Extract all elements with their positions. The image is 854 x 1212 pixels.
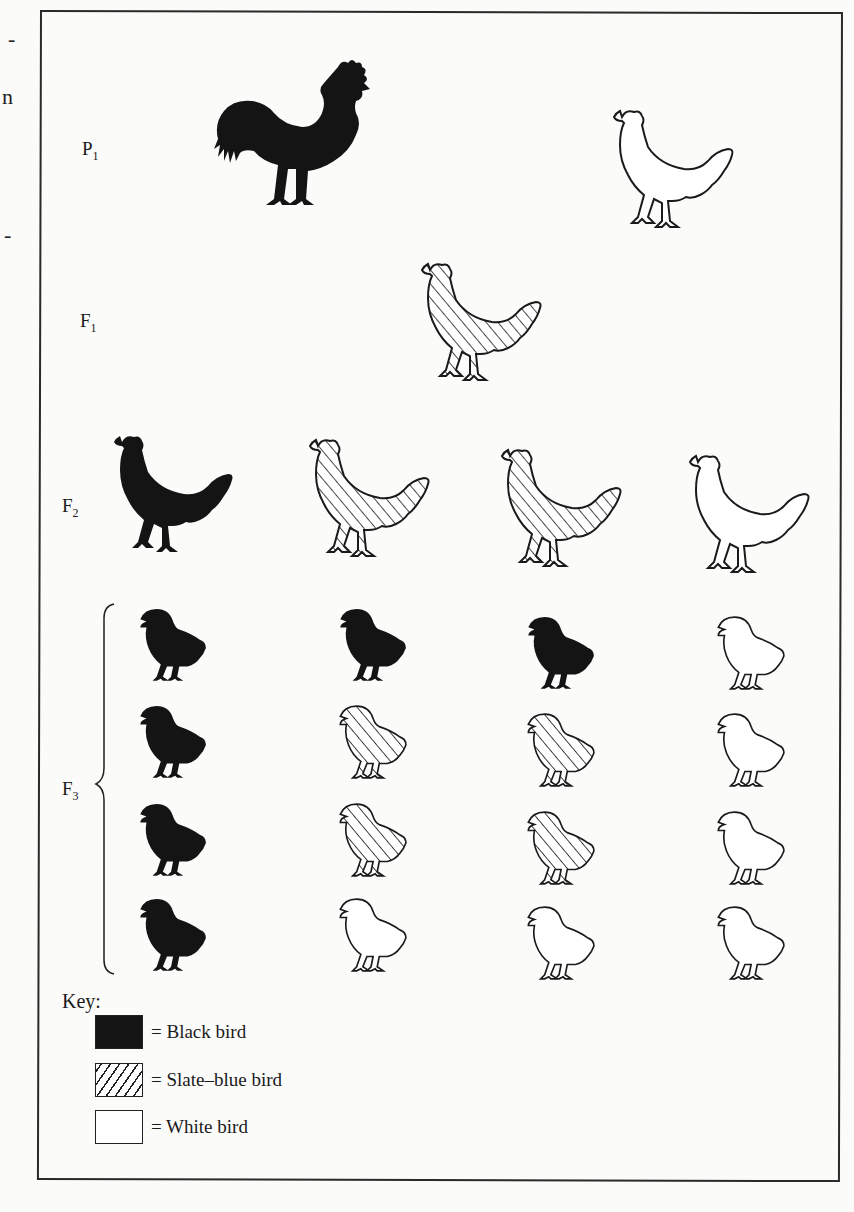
f3-brace-icon bbox=[90, 600, 120, 980]
key-label: = White bird bbox=[151, 1116, 248, 1138]
f3-chick-white-icon bbox=[328, 895, 410, 977]
white-swatch-icon bbox=[95, 1110, 143, 1144]
generation-label-p1: P1 bbox=[82, 138, 99, 164]
margin-fragment: - bbox=[8, 26, 15, 52]
margin-fragment: n bbox=[2, 84, 13, 110]
f3-chick-slate-blue-icon bbox=[516, 710, 598, 792]
key-label: = Slate–blue bird bbox=[151, 1069, 282, 1091]
f2-hen-slate-blue-icon bbox=[296, 434, 436, 584]
f3-chick-slate-blue-icon bbox=[516, 808, 598, 890]
generation-label-f1: F1 bbox=[80, 310, 97, 336]
f3-chick-black-icon bbox=[516, 613, 598, 695]
generation-label-f2: F2 bbox=[62, 495, 79, 521]
f3-chick-white-icon bbox=[706, 808, 788, 890]
f2-hen-white-icon bbox=[676, 450, 816, 600]
f3-chick-black-icon bbox=[128, 702, 210, 784]
p1-rooster-black-icon bbox=[188, 55, 378, 245]
key-item-black: = Black bird bbox=[95, 1015, 246, 1049]
f2-hen-slate-blue-icon bbox=[488, 444, 628, 594]
f1-hen-slate-blue-icon bbox=[408, 258, 548, 408]
generation-label-f3: F3 bbox=[62, 778, 79, 804]
f3-chick-white-icon bbox=[706, 613, 788, 695]
key-item-slate-blue: = Slate–blue bird bbox=[95, 1063, 282, 1097]
f3-chick-black-icon bbox=[328, 605, 410, 687]
f2-hen-black-icon bbox=[100, 430, 240, 580]
f3-chick-white-icon bbox=[516, 903, 598, 985]
f3-chick-slate-blue-icon bbox=[328, 702, 410, 784]
key-label: = Black bird bbox=[151, 1021, 246, 1043]
key-item-white: = White bird bbox=[95, 1110, 248, 1144]
f3-chick-black-icon bbox=[128, 605, 210, 687]
black-swatch-icon bbox=[95, 1015, 143, 1049]
key-title: Key: bbox=[62, 990, 101, 1013]
f3-chick-black-icon bbox=[128, 800, 210, 882]
f3-chick-white-icon bbox=[706, 903, 788, 985]
f3-chick-slate-blue-icon bbox=[328, 800, 410, 882]
hatched-swatch-icon bbox=[95, 1063, 143, 1097]
f3-chick-black-icon bbox=[128, 895, 210, 977]
f3-chick-white-icon bbox=[706, 710, 788, 792]
p1-hen-white-icon bbox=[600, 105, 740, 255]
margin-fragment: - bbox=[4, 222, 11, 248]
